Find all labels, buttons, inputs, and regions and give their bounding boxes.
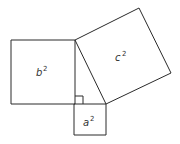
label-c-exponent: 2 [122,50,126,58]
label-a-base: a [83,117,89,128]
label-b-squared: b 2 [36,65,47,78]
label-a-exponent: 2 [90,115,94,123]
label-c-base: c [115,52,121,63]
pythagorean-diagram: b 2 c 2 a 2 [0,0,180,144]
label-a-squared: a 2 [83,115,94,128]
label-c-squared: c 2 [115,50,126,63]
right-angle-marker [75,96,83,104]
label-b-exponent: 2 [43,65,47,73]
label-b-base: b [36,67,42,78]
